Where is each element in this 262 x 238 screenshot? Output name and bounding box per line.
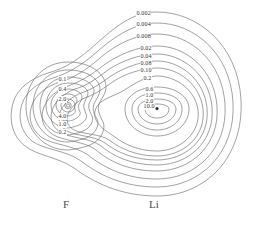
contour-plot-svg [0, 0, 262, 238]
contour-label-f-0-2: 0.2 [58, 129, 67, 136]
contour-figure: 0.002 0.004 0.008 0.02 0.04 0.08 0.10 0.… [0, 0, 262, 238]
contour-label-10-0: 10.0 [143, 103, 155, 110]
contour-label-0-002: 0.002 [136, 10, 151, 17]
contour-label-0-04: 0.04 [140, 53, 152, 60]
contour-level-0-08 [59, 61, 207, 160]
contour-level-0-004 [20, 23, 233, 187]
contour-label-0-08: 0.08 [140, 60, 152, 67]
contour-label-f-0-1: 0.1 [58, 76, 67, 83]
contour-label-0-008: 0.008 [136, 33, 151, 40]
li-nucleus-marker [156, 107, 159, 110]
contour-level-0-008 [30, 34, 225, 179]
li-core-contours [125, 87, 189, 136]
contour-label-0-02: 0.02 [140, 45, 152, 52]
contour-label-f-2-0: 2.0 [58, 96, 67, 103]
contour-label-f-1-0: 1.0 [58, 121, 67, 128]
contour-label-f-4-0: 4.0 [58, 113, 67, 120]
contour-label-0-004: 0.004 [136, 21, 151, 28]
contour-label-0-10: 0.10 [140, 67, 152, 74]
contour-level-inner-f [65, 102, 71, 108]
atom-label-li: Li [149, 198, 159, 210]
contour-label-f-0-4: 0.4 [58, 86, 67, 93]
contour-level-0-6-li [125, 87, 189, 136]
contour-level-innermost-f [66, 104, 69, 107]
contour-label-0-2: 0.2 [143, 75, 152, 82]
contour-level-1-0-li [132, 93, 182, 130]
atom-label-f: F [63, 198, 69, 210]
